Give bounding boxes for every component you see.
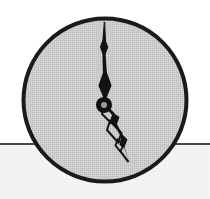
clock-scene	[0, 0, 210, 199]
clock-illustration	[0, 0, 210, 199]
clock-hub-inner	[101, 102, 107, 108]
